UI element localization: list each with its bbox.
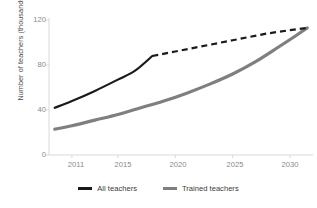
- series-line-all-teachers-solid: [55, 56, 153, 108]
- series-line-trained-teachers: [55, 28, 308, 129]
- legend-item-trained-teachers[interactable]: Trained teachers: [163, 184, 239, 193]
- chart-legend: All teachers Trained teachers: [0, 184, 317, 193]
- legend-swatch-icon: [163, 187, 177, 190]
- legend-swatch-icon: [78, 187, 92, 190]
- legend-label-all-teachers: All teachers: [97, 184, 137, 193]
- plot-area: [0, 0, 317, 208]
- chart-container: Number of teachers (thousands) 120 80 40…: [0, 0, 317, 208]
- axis-lines: [49, 18, 313, 155]
- legend-label-trained-teachers: Trained teachers: [182, 184, 239, 193]
- legend-item-all-teachers[interactable]: All teachers: [78, 184, 137, 193]
